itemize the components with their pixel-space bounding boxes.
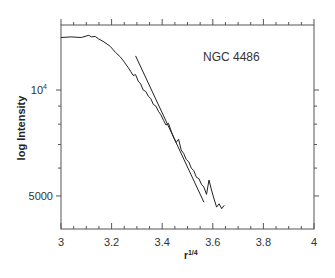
y-axis-ticks: 1045000 bbox=[29, 83, 319, 202]
y-tick-label: 104 bbox=[31, 83, 47, 96]
fit-line bbox=[136, 56, 204, 202]
x-axis-label: r1/4 bbox=[184, 249, 198, 261]
plot-frame bbox=[61, 25, 314, 229]
x-tick-label: 3 bbox=[58, 236, 64, 248]
y-tick-label: 5000 bbox=[29, 190, 53, 202]
galaxy-annotation: NGC 4486 bbox=[203, 50, 260, 64]
y-axis-label: log Intensity bbox=[15, 95, 27, 161]
x-axis-ticks: 33.23.43.63.84 bbox=[58, 19, 317, 248]
data-series bbox=[61, 35, 224, 208]
chart: 33.23.43.63.84 1045000 NGC 4486 log Inte… bbox=[0, 0, 335, 278]
x-tick-label: 3.8 bbox=[256, 236, 271, 248]
x-tick-label: 3.2 bbox=[104, 236, 119, 248]
plot-border bbox=[61, 25, 314, 229]
x-axis-label-exponent: 1/4 bbox=[188, 249, 198, 256]
profile-curve bbox=[61, 35, 224, 208]
x-tick-label: 3.4 bbox=[155, 236, 170, 248]
x-tick-label: 3.6 bbox=[205, 236, 220, 248]
x-tick-label: 4 bbox=[311, 236, 317, 248]
